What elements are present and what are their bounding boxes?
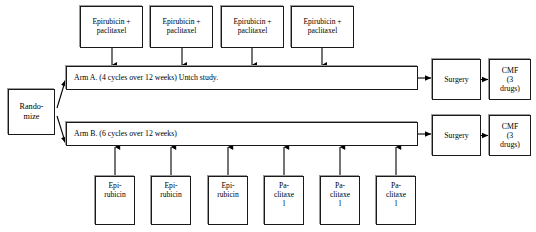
trial-schema-flowchart: Epirubicin + paclitaxel Epirubicin + pac… — [0, 0, 536, 232]
node-epirubicin-2: Epi- rubicin — [151, 176, 191, 225]
node-label: Epi- rubicin — [152, 182, 190, 200]
node-paclitaxel-2: Pa- clitaxe l — [320, 176, 360, 225]
node-label: CMF (3 drugs) — [490, 66, 530, 94]
node-label: Pa- clitaxe l — [321, 182, 359, 209]
node-label: CMF (3 drugs) — [490, 122, 530, 150]
node-randomize: Rando- mize — [8, 89, 55, 135]
node-label: Epirubicin + paclitaxel — [81, 18, 142, 36]
node-cmf-arm-a: CMF (3 drugs) — [489, 59, 531, 100]
node-label: Epirubicin + paclitaxel — [292, 18, 353, 36]
node-label: Pa- clitaxe l — [377, 182, 415, 209]
node-epirubicin-paclitaxel-1: Epirubicin + paclitaxel — [80, 6, 143, 48]
arrow-randomize-to-arm-a — [57, 80, 66, 108]
node-label: Rando- mize — [9, 102, 54, 121]
node-epirubicin-paclitaxel-3: Epirubicin + paclitaxel — [221, 6, 284, 48]
node-label: Surgery — [433, 131, 480, 140]
node-surgery-arm-b: Surgery — [432, 115, 481, 156]
node-label: Epirubicin + paclitaxel — [151, 18, 212, 36]
node-surgery-arm-a: Surgery — [432, 59, 481, 100]
node-label: Surgery — [433, 75, 480, 84]
node-paclitaxel-3: Pa- clitaxe l — [376, 176, 416, 225]
node-epirubicin-paclitaxel-4: Epirubicin + paclitaxel — [291, 6, 354, 48]
node-epirubicin-3: Epi- rubicin — [208, 176, 248, 225]
node-paclitaxel-1: Pa- clitaxe l — [264, 176, 304, 225]
node-arm-b-bar: Arm B. (6 cycles over 12 weeks) — [66, 122, 418, 146]
node-epirubicin-1: Epi- rubicin — [95, 176, 135, 225]
node-label: Epi- rubicin — [209, 182, 247, 200]
node-label: Epi- rubicin — [96, 182, 134, 200]
node-cmf-arm-b: CMF (3 drugs) — [489, 115, 531, 156]
node-arm-a-bar: Arm A. (4 cycles over 12 weeks) Untch st… — [66, 66, 418, 90]
node-epirubicin-paclitaxel-2: Epirubicin + paclitaxel — [150, 6, 213, 48]
arm-b-label: Arm B. (6 cycles over 12 weeks) — [67, 129, 417, 138]
node-label: Pa- clitaxe l — [265, 182, 303, 209]
arrow-randomize-to-arm-b — [57, 116, 66, 143]
node-label: Epirubicin + paclitaxel — [222, 18, 283, 36]
arm-a-label: Arm A. (4 cycles over 12 weeks) Untch st… — [67, 73, 417, 82]
